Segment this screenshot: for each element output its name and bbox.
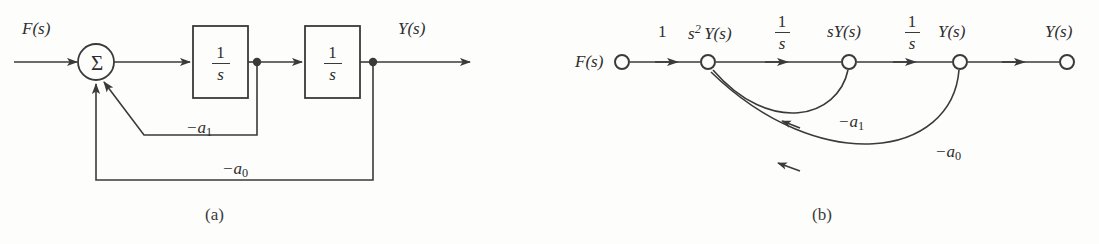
sfg-feedback-a0-curve (711, 70, 959, 144)
sfg-node-3-label: Y(s) (938, 23, 965, 40)
sfg-branch-gain-1-label: 1 (658, 23, 667, 40)
sfg-feedback-a1-subscript: 1 (858, 119, 864, 133)
sfg-feedback-a1-label: −a1 (838, 113, 864, 133)
sfg-branch-gain-2-label: 1 s (767, 13, 797, 52)
sfg-node-1-exponent: 2 (695, 22, 701, 36)
panel-b-caption: (b) (812, 205, 832, 225)
block2-numerator: 1 (311, 44, 354, 62)
block1-numerator: 1 (199, 44, 242, 62)
panel-a-input-label: F(s) (22, 20, 50, 37)
sfg-node-2-label: sY(s) (827, 23, 861, 40)
sfg-feedback-a0-subscript: 0 (955, 149, 961, 163)
sfg-gain3-numerator: 1 (897, 13, 927, 31)
inner-feedback-gain-text: −a (186, 118, 206, 137)
outer-feedback-gain-text: −a (222, 159, 242, 178)
sfg-node-2-base: Y(s) (834, 22, 861, 41)
sfg-gain2-numerator: 1 (767, 13, 797, 31)
sfg-branch-gain-3-label: 1 s (897, 13, 927, 52)
integrator-block-2-gain: 1 s (311, 44, 354, 83)
block2-denominator: s (311, 65, 354, 83)
inner-feedback-gain-label: −a1 (186, 119, 212, 139)
block2-fraction-bar (324, 63, 342, 64)
sfg-node-1-base: Y(s) (704, 24, 731, 43)
block1-denominator: s (199, 65, 242, 83)
sfg-node-1 (701, 55, 715, 69)
sfg-node-1-label: s2 Y(s) (688, 23, 732, 42)
sfg-node-0-label: F(s) (575, 53, 603, 70)
outer-feedback-gain-label: −a0 (222, 160, 248, 180)
panel-a-output-label: Y(s) (398, 20, 425, 37)
inner-feedback-gain-subscript: 1 (206, 125, 212, 139)
block1-fraction-bar (212, 63, 230, 64)
sfg-feedback-a0-arrow (778, 163, 800, 171)
sfg-node-1-prefix: s (688, 24, 695, 43)
sfg-gain3-denominator: s (897, 34, 927, 52)
integrator-block-1-gain: 1 s (199, 44, 242, 83)
sfg-feedback-a0-label: −a0 (935, 143, 961, 163)
outer-feedback-gain-subscript: 0 (242, 166, 248, 180)
sfg-node-3 (953, 55, 967, 69)
sfg-gain2-denominator: s (767, 34, 797, 52)
sfg-feedback-a0-text: −a (935, 142, 955, 161)
summing-junction-symbol: Σ (86, 51, 108, 76)
diagram-lines (0, 0, 1099, 244)
sfg-gain2-fraction-bar (775, 32, 790, 33)
sfg-node-2 (842, 55, 856, 69)
figure-container: F(s) Σ 1 s 1 s Y(s) −a1 −a0 (a) F(s) 1 s… (0, 0, 1099, 244)
panel-a-caption: (a) (205, 205, 224, 225)
panel-a-lines (14, 26, 470, 180)
sfg-node-2-prefix: s (827, 22, 834, 41)
sfg-node-4-label: Y(s) (1045, 23, 1072, 40)
sfg-node-0 (615, 55, 629, 69)
sfg-gain3-fraction-bar (905, 32, 920, 33)
sfg-node-4 (1060, 55, 1074, 69)
sfg-feedback-a1-text: −a (838, 112, 858, 131)
